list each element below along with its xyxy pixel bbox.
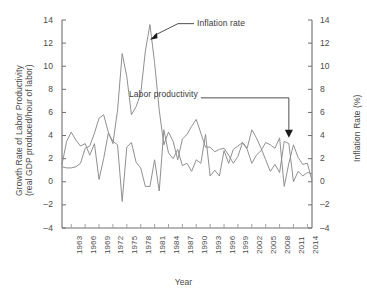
x-tick-label: 1999 (241, 236, 250, 254)
inflation-rate-annotation: Inflation rate (197, 18, 245, 28)
y-tick-label-right: 4 (320, 130, 325, 140)
y-axis-left-title: (real GDP produced/hour of labor) (24, 64, 34, 196)
y-tick-label-right: 8 (320, 84, 325, 94)
x-tick-label: 1972 (116, 236, 125, 254)
y-tick-label-right: 10 (320, 61, 330, 71)
y-tick-label-right: 14 (320, 15, 330, 25)
x-tick-label: 2011 (297, 236, 306, 254)
x-tick-label: 2005 (269, 236, 278, 254)
y-tick-label-left: –2 (0, 199, 53, 209)
y-tick-label-right: –2 (320, 199, 330, 209)
x-tick-label: 2008 (283, 236, 292, 254)
y-tick-label-right: 0 (320, 176, 325, 186)
series-line-labor-productivity (62, 130, 312, 202)
x-tick-label: 1969 (103, 236, 112, 254)
x-tick-label: 1966 (89, 236, 98, 254)
x-tick-label: 1975 (130, 236, 139, 254)
y-axis-right-title: Inflation Rate (%) (352, 95, 362, 162)
y-tick-label-right: 12 (320, 38, 330, 48)
y-tick-label-right: 6 (320, 107, 325, 117)
y-axis-left-title: Growth Rate of Labor Productivity (14, 65, 24, 196)
y-tick-label-left: 12 (0, 38, 53, 48)
x-tick-label: 1993 (214, 236, 223, 254)
series-line-inflation-rate (62, 25, 312, 187)
y-tick-label-right: 2 (320, 153, 325, 163)
labor-annotation-arrowhead (285, 130, 293, 138)
x-tick-label: 2002 (255, 236, 264, 254)
x-tick-label: 1978 (144, 236, 153, 254)
x-tick-label: 2014 (311, 236, 320, 254)
x-tick-label: 1996 (228, 236, 237, 254)
y-tick-label-left: 14 (0, 15, 53, 25)
x-tick-label: 1984 (172, 236, 181, 254)
y-tick-label-left: –4 (0, 223, 53, 233)
y-tick-label-right: –4 (320, 223, 330, 233)
chart-figure: –4–202468101214–4–2024681012141963196619… (0, 0, 367, 296)
x-tick-label: 1987 (186, 236, 195, 254)
x-tick-label: 1990 (200, 236, 209, 254)
labor-productivity-annotation: Labor productivity (129, 89, 201, 99)
inflation-annotation-leader (154, 24, 178, 36)
x-tick-label: 1963 (75, 236, 84, 254)
x-axis-title: Year (0, 277, 367, 287)
x-tick-label: 1981 (158, 236, 167, 254)
